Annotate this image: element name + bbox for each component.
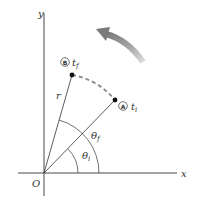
x-axis-label: x <box>181 168 187 179</box>
rotation-arrow-icon <box>96 27 143 62</box>
marker-b-letter: B <box>63 59 68 66</box>
circular-path <box>72 75 115 100</box>
marker-a-letter: A <box>121 103 126 110</box>
origin-label: O <box>32 178 40 189</box>
point-a <box>113 98 118 103</box>
radius-label: r <box>56 90 62 101</box>
theta-f-label: θf <box>91 130 101 143</box>
angular-position-diagram: x y O r θi θf B tf A ti <box>0 0 197 202</box>
y-axis-label: y <box>37 8 44 19</box>
theta-i-arc <box>68 149 78 173</box>
point-a-label: A ti <box>119 101 138 114</box>
point-b-label: B tf <box>61 57 80 70</box>
time-initial-label: ti <box>131 101 137 114</box>
point-b <box>70 73 75 78</box>
theta-i-label: θi <box>82 150 90 163</box>
time-final-label: tf <box>72 57 80 70</box>
theta-f-arc <box>59 120 99 173</box>
